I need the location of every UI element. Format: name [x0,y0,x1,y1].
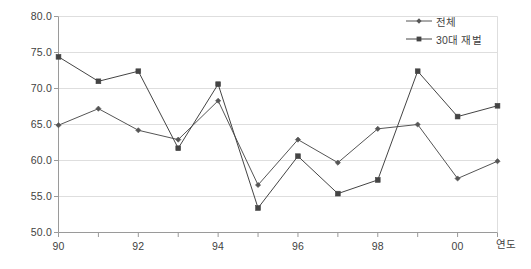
x-tick-label: 92 [118,240,158,252]
data-point-marker-square [455,114,460,119]
data-point-marker-square [296,154,301,159]
series-line [59,57,498,208]
legend-item-total[interactable]: 전체 [404,13,500,29]
y-tick-label: 65.0 [8,118,52,130]
series-chaebol [56,54,500,210]
y-tick-label: 60.0 [8,154,52,166]
data-point-marker-square [96,79,101,84]
y-tick-label: 55.0 [8,190,52,202]
data-point-marker-diamond [56,123,61,128]
legend-label: 전체 [436,14,456,29]
y-tick-label: 80.0 [8,10,52,22]
x-tick-label: 90 [39,240,79,252]
x-tick-label: 94 [198,240,238,252]
y-tick-label: 50.0 [8,226,52,238]
legend-marker-diamond-icon [404,13,434,29]
data-point-marker-diamond [96,106,101,111]
data-point-marker-square [335,191,340,196]
series-line [59,101,498,185]
legend-marker-square-icon [404,31,434,47]
legend-item-chaebol[interactable]: 30대 재벌 [404,31,500,47]
legend-label: 30대 재벌 [436,32,482,47]
data-point-marker-diamond [495,159,500,164]
x-axis-title: 연도 [496,236,516,251]
data-point-marker-square [415,69,420,74]
y-tick-label: 70.0 [8,82,52,94]
data-point-marker-square [56,54,61,59]
x-tick-label: 96 [278,240,318,252]
x-tick-label: 98 [358,240,398,252]
y-tick-label: 75.0 [8,46,52,58]
line-chart: 80.075.070.065.060.055.050.0 90929496980… [0,0,531,269]
data-point-marker-square [495,103,500,108]
legend: 전체30대 재벌 [404,13,500,49]
data-point-marker-diamond [136,128,141,133]
data-point-marker-square [375,178,380,183]
x-tick-label: 00 [438,240,478,252]
data-point-marker-square [136,69,141,74]
data-point-marker-square [256,206,261,211]
data-point-marker-square [216,82,221,87]
data-point-marker-square [176,146,181,151]
series-total [56,98,500,187]
